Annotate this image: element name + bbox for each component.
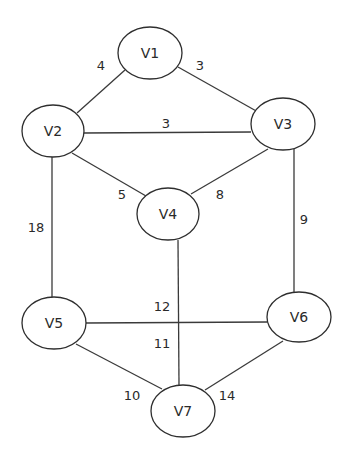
edge-v5-v6 — [86, 322, 267, 323]
node-label: V5 — [45, 315, 63, 331]
edge-weight-v5-v7: 10 — [124, 388, 141, 403]
edge-weight-v1-v2: 4 — [97, 58, 105, 73]
edge-weight-v5-v6: 12 — [154, 299, 171, 314]
node-label: V6 — [290, 309, 309, 325]
edge-weight-v1-v3: 3 — [196, 58, 204, 73]
edge-weight-v3-v6: 9 — [300, 212, 308, 227]
node-v2: V2 — [22, 105, 84, 157]
node-v5: V5 — [22, 297, 86, 349]
edge-weight-v2-v3: 3 — [162, 116, 170, 131]
weighted-graph-diagram: 4335818911121014 V1V2V3V4V5V6V7 — [0, 0, 351, 459]
node-label: V1 — [141, 45, 159, 61]
edge-weight-v3-v4: 8 — [216, 187, 224, 202]
node-label: V4 — [159, 206, 178, 222]
nodes: V1V2V3V4V5V6V7 — [22, 27, 331, 437]
edge-v2-v3 — [84, 132, 251, 133]
edge-v6-v7 — [205, 341, 283, 390]
node-label: V3 — [274, 116, 292, 132]
node-v4: V4 — [137, 188, 199, 240]
node-label: V7 — [174, 403, 192, 419]
edge-v5-v7 — [76, 344, 162, 389]
node-label: V2 — [44, 123, 62, 139]
node-v7: V7 — [151, 385, 215, 437]
edge-weight-v2-v5: 18 — [28, 220, 45, 235]
node-v3: V3 — [251, 98, 315, 150]
edge-v3-v4 — [191, 149, 268, 194]
edge-weight-v2-v4: 5 — [118, 187, 126, 202]
edge-v4-v7 — [178, 240, 179, 385]
edge-v2-v4 — [72, 153, 146, 196]
edge-v1-v2 — [77, 70, 125, 113]
node-v1: V1 — [118, 27, 182, 79]
edge-weight-v4-v7: 11 — [154, 336, 171, 351]
node-v6: V6 — [267, 292, 331, 342]
edge-v1-v3 — [178, 67, 258, 112]
edge-weight-v6-v7: 14 — [219, 388, 236, 403]
